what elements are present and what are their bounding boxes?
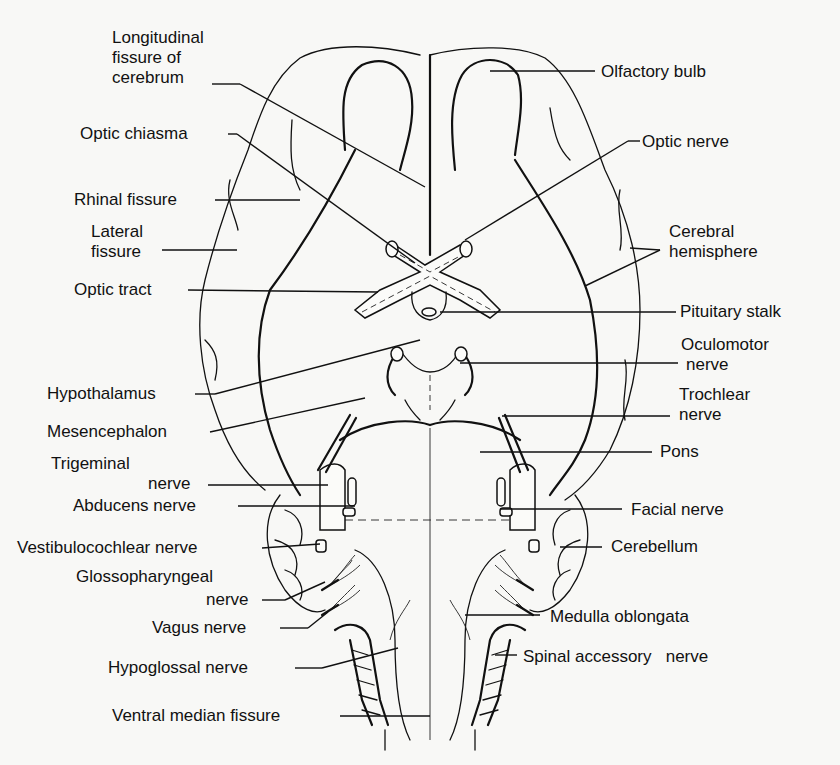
label-medulla-oblongata: Medulla oblongata bbox=[550, 607, 689, 627]
olfactory-bulb-right bbox=[452, 60, 521, 170]
label-optic-tract: Optic tract bbox=[74, 280, 151, 300]
label-rhinal-fissure: Rhinal fissure bbox=[74, 190, 177, 210]
label-spinal-accessory-nerve: Spinal accessory nerve bbox=[523, 647, 708, 667]
label-pons: Pons bbox=[660, 442, 699, 462]
label-line: nerve bbox=[679, 405, 750, 425]
label-line: Oculomotor bbox=[681, 335, 769, 355]
label-line: Longitudinal bbox=[112, 28, 204, 48]
label-hypoglossal-nerve: Hypoglossal nerve bbox=[108, 658, 248, 678]
label-line: Glossopharyngeal bbox=[76, 567, 249, 587]
label-mesencephalon: Mesencephalon bbox=[47, 422, 167, 442]
label-line: cerebrum bbox=[112, 68, 204, 88]
label-trochlear-nerve: Trochlear nerve bbox=[679, 385, 750, 425]
label-line: Trigeminal bbox=[51, 454, 191, 474]
label-oculomotor-nerve: Oculomotor nerve bbox=[681, 335, 769, 375]
label-olfactory-bulb: Olfactory bulb bbox=[601, 62, 706, 82]
label-optic-nerve: Optic nerve bbox=[642, 132, 729, 152]
label-pituitary-stalk: Pituitary stalk bbox=[680, 302, 781, 322]
label-line: fissure bbox=[91, 242, 143, 262]
brain-drawing bbox=[0, 0, 840, 765]
label-line: Cerebral bbox=[669, 222, 758, 242]
label-line: nerve bbox=[681, 355, 769, 375]
label-cerebellum: Cerebellum bbox=[611, 537, 698, 557]
label-lateral-fissure: Lateral fissure bbox=[91, 222, 143, 262]
label-cerebral-hemisphere: Cerebral hemisphere bbox=[669, 222, 758, 262]
label-line: hemisphere bbox=[669, 242, 758, 262]
label-optic-chiasma: Optic chiasma bbox=[80, 124, 188, 144]
label-facial-nerve: Facial nerve bbox=[631, 500, 724, 520]
label-hypothalamus: Hypothalamus bbox=[47, 384, 156, 404]
label-line: Trochlear bbox=[679, 385, 750, 405]
brain-diagram: Longitudinal fissure of cerebrum Optic c… bbox=[0, 0, 840, 765]
label-line: Lateral bbox=[91, 222, 143, 242]
label-vagus-nerve: Vagus nerve bbox=[152, 618, 246, 638]
label-trigeminal-nerve: Trigeminal nerve bbox=[51, 454, 191, 494]
optic-chiasma bbox=[355, 241, 500, 318]
label-ventral-median-fissure: Ventral median fissure bbox=[112, 706, 280, 726]
label-vestibulocochlear-nerve: Vestibulocochlear nerve bbox=[17, 538, 198, 558]
label-longitudinal-fissure: Longitudinal fissure of cerebrum bbox=[112, 28, 204, 88]
label-line: nerve bbox=[76, 590, 249, 610]
cerebellum bbox=[267, 495, 587, 612]
label-abducens-nerve: Abducens nerve bbox=[73, 496, 196, 516]
label-glossopharyngeal-nerve: Glossopharyngeal nerve bbox=[76, 567, 249, 610]
label-line: fissure of bbox=[112, 48, 204, 68]
label-line: nerve bbox=[51, 474, 191, 494]
